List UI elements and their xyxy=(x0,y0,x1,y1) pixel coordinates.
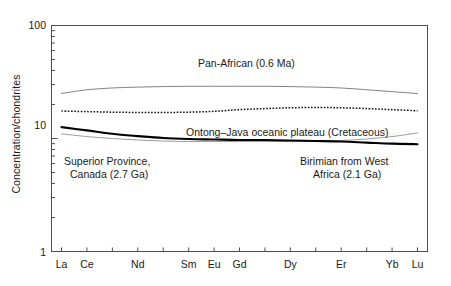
x-tick-label-nd: Nd xyxy=(123,259,153,270)
y-tick-label-100: 100 xyxy=(20,20,46,31)
annotation-ontong-java: Ontong–Java oceanic plateau (Cretaceous) xyxy=(186,126,389,139)
annotation-superior-line1: Superior Province, xyxy=(64,155,150,168)
y-axis-title: Concentration/chondrites xyxy=(10,34,22,234)
annotation-superior-line2: Canada (2.7 Ga) xyxy=(70,168,148,181)
y-tick-label-10: 10 xyxy=(20,120,46,131)
x-tick-label-lu: Lu xyxy=(403,259,433,270)
annotation-birimian-line1: Birimian from West xyxy=(300,155,389,168)
x-tick-label-dy: Dy xyxy=(275,259,305,270)
annotation-pan-african: Pan-African (0.6 Ma) xyxy=(198,57,295,70)
series-line-ontong-java xyxy=(62,108,418,113)
chart-canvas xyxy=(0,0,451,286)
x-tick-label-ce: Ce xyxy=(72,259,102,270)
y-tick-label-1: 1 xyxy=(20,247,46,258)
x-axis-ticks xyxy=(62,248,418,252)
x-tick-label-er: Er xyxy=(326,259,356,270)
annotation-birimian-line2: Africa (2.1 Ga) xyxy=(313,168,381,181)
series-line-pan-african xyxy=(62,86,418,93)
ree-chondrite-chart: Concentration/chondrites 100 10 1 LaCeNd… xyxy=(0,0,451,286)
y-axis-ticks xyxy=(52,26,58,252)
x-tick-label-gd: Gd xyxy=(225,259,255,270)
